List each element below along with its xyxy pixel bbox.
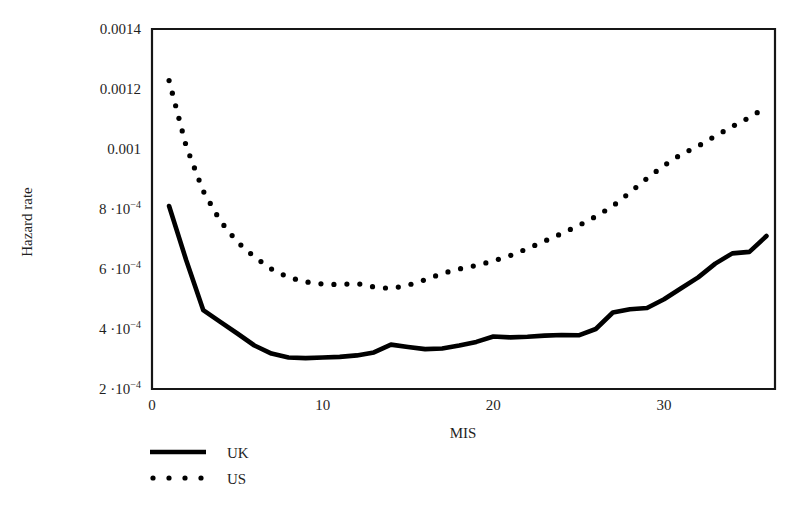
y-tick-label: 0.001 [107, 141, 141, 157]
x-tick-label: 30 [657, 397, 672, 413]
legend-swatch-dotted [166, 475, 171, 480]
plot-frame-outline [152, 29, 775, 389]
data-series-group [166, 78, 766, 358]
x-axis-title: MIS [450, 425, 477, 441]
x-axis-tick-labels: 0102030 [148, 397, 671, 413]
hazard-rate-chart: 0.00140.00120.0018 ·10−46 ·10−44 ·10−42 … [0, 0, 797, 512]
legend-swatch-dotted [198, 475, 203, 480]
y-tick-label: 0.0012 [100, 81, 141, 97]
plot-frame [152, 29, 775, 389]
y-tick-label: 4 ·10−4 [99, 319, 141, 337]
y-tick-label: 2 ·10−4 [99, 379, 141, 397]
legend-label: UK [227, 445, 249, 461]
x-tick-label: 0 [148, 397, 156, 413]
x-tick-label: 10 [315, 397, 330, 413]
legend-label: US [227, 471, 246, 487]
chart-legend: UKUS [150, 445, 249, 487]
y-tick-label: 0.0014 [100, 21, 142, 37]
y-tick-label: 6 ·10−4 [99, 259, 141, 277]
series-line-uk [169, 206, 766, 358]
legend-swatch-dotted [150, 475, 155, 480]
y-tick-label: 8 ·10−4 [99, 199, 141, 217]
legend-swatch-dotted [182, 475, 187, 480]
x-tick-label: 20 [486, 397, 501, 413]
y-axis-tick-labels: 0.00140.00120.0018 ·10−46 ·10−44 ·10−42 … [99, 21, 141, 397]
y-axis-title: Hazard rate [19, 187, 35, 257]
series-dots-us [166, 78, 759, 291]
